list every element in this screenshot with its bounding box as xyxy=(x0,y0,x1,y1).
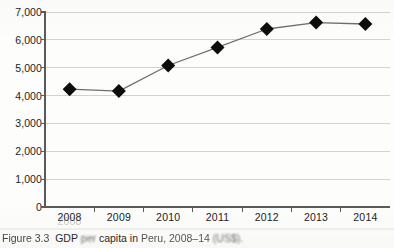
line-chart-svg xyxy=(0,0,394,215)
figure-container: 7,000 6,000 5,000 4,000 3,000 2,000 1,00… xyxy=(0,0,394,248)
data-point-2010 xyxy=(161,59,175,73)
data-point-2012 xyxy=(260,22,274,36)
caption-word-capita-in: capita in xyxy=(99,232,138,244)
caption-word-gdp: GDP xyxy=(55,232,78,244)
x-tick-label-2014: 2014 xyxy=(335,211,394,223)
data-point-2013 xyxy=(309,16,323,30)
figure-caption: Figure 3.3 GDP per capita in Peru, 2008–… xyxy=(2,231,394,248)
page-text-residue xyxy=(0,228,394,230)
caption-word-currency: (US$). xyxy=(213,232,243,244)
caption-word-years: 2008–14 xyxy=(169,232,210,244)
data-markers xyxy=(63,16,373,99)
data-line xyxy=(70,23,366,92)
gridlines xyxy=(45,12,390,179)
chart-plot-area: 7,000 6,000 5,000 4,000 3,000 2,000 1,00… xyxy=(0,0,394,215)
data-point-2011 xyxy=(211,40,225,54)
y-axis-ticks xyxy=(41,12,45,207)
data-point-2008 xyxy=(63,82,77,96)
caption-word-per: per xyxy=(81,232,96,244)
caption-word-country: Peru, xyxy=(141,232,166,244)
data-point-2014 xyxy=(358,17,372,31)
caption-figure-label: Figure 3.3 xyxy=(2,232,49,244)
